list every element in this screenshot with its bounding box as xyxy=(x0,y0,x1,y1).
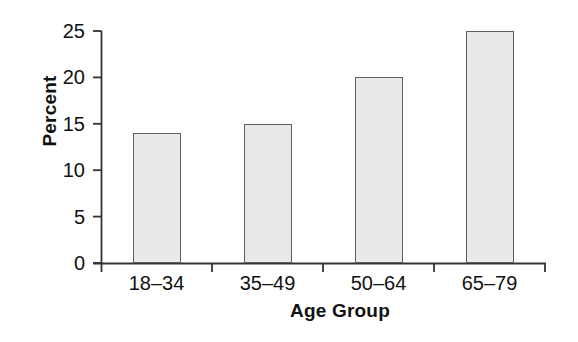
y-tick-label-25: 25 xyxy=(41,21,85,41)
bar-65-79 xyxy=(466,31,514,263)
bar-50-64 xyxy=(355,77,403,263)
y-tick-label-0: 0 xyxy=(41,253,85,273)
x-tick-label-65-79: 65–79 xyxy=(434,272,545,294)
y-tick-label-10: 10 xyxy=(41,160,85,180)
y-axis-title: Percent xyxy=(39,71,61,151)
bar-18-34 xyxy=(133,133,181,263)
y-tick-label-5: 5 xyxy=(41,207,85,227)
x-tick-label-18-34: 18–34 xyxy=(101,272,212,294)
bar-chart: 25 20 15 10 5 0 18–34 35–49 50–64 65–79 … xyxy=(0,0,578,342)
x-tick-label-35-49: 35–49 xyxy=(212,272,323,294)
x-tick-label-50-64: 50–64 xyxy=(323,272,434,294)
bar-35-49 xyxy=(244,124,292,263)
x-axis-title-text: Age Group xyxy=(290,300,390,322)
x-axis-title: Age Group xyxy=(0,300,578,322)
